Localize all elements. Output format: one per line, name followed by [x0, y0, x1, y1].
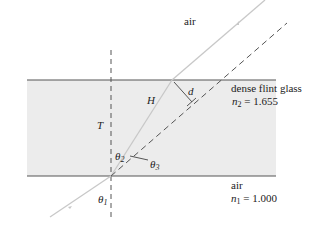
top-medium-label: air	[184, 16, 196, 27]
theta3-label: θ3	[150, 159, 159, 172]
slab-index-label: n2 = 1.655	[232, 96, 278, 109]
bottom-medium-label: air	[231, 180, 243, 191]
theta2-label: θ2	[115, 151, 124, 164]
thickness-label: T	[97, 120, 103, 131]
bottom-index-label: n1 = 1.000	[231, 193, 277, 206]
emergent-ray	[172, 0, 265, 80]
path-length-label: H	[147, 95, 155, 106]
displacement-label: d	[188, 86, 194, 97]
arrow-incident	[68, 206, 72, 209]
refraction-diagram	[0, 0, 310, 246]
theta1-label: θ1	[98, 194, 107, 207]
slab-medium-label: dense flint glass	[231, 83, 302, 94]
